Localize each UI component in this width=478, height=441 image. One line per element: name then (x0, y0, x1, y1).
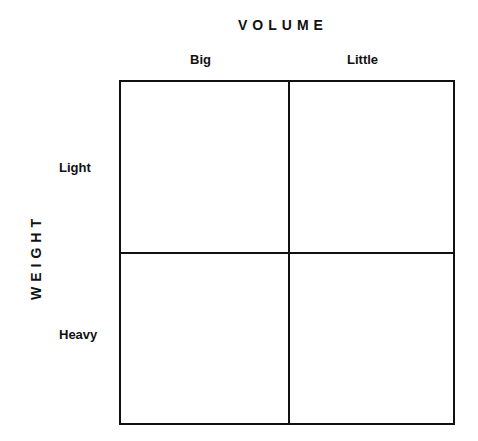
row-label-light: Light (59, 160, 91, 175)
cell-light-little (290, 82, 453, 252)
y-axis-title: WEIGHT (28, 214, 44, 300)
x-axis-title: VOLUME (238, 17, 328, 33)
cell-heavy-big (121, 254, 288, 423)
two-by-two-matrix (119, 80, 455, 425)
horizontal-divider (121, 252, 453, 254)
row-label-heavy: Heavy (59, 327, 97, 342)
column-label-little: Little (347, 52, 378, 67)
cell-heavy-little (290, 254, 453, 423)
column-label-big: Big (190, 52, 211, 67)
cell-light-big (121, 82, 288, 252)
